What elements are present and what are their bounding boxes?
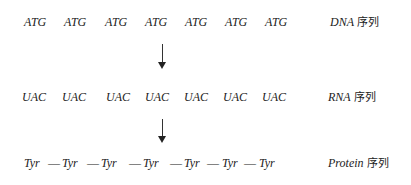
peptide-bond: — <box>129 155 141 171</box>
protein-residue: Tyr <box>24 155 40 171</box>
rna-label-zh: 序列 <box>354 91 376 104</box>
arrow-head <box>158 62 166 69</box>
peptide-bond: — <box>87 155 99 171</box>
dna-codon: ATG <box>105 14 127 30</box>
dna-codon: ATG <box>145 14 167 30</box>
dna-sequence-row: ATG ATG ATG ATG ATG ATG ATG DNA 序列 <box>0 14 411 30</box>
arrow-shaft <box>162 44 163 63</box>
protein-residue: Tyr <box>62 155 78 171</box>
protein-residue: Tyr <box>101 155 117 171</box>
dna-codon: ATG <box>265 14 287 30</box>
peptide-bond: — <box>207 155 219 171</box>
dna-codon: ATG <box>185 14 207 30</box>
dna-codon: ATG <box>225 14 247 30</box>
peptide-bond: — <box>244 155 256 171</box>
peptide-bond: — <box>170 155 182 171</box>
dna-label: DNA 序列 <box>330 14 379 31</box>
protein-residue: Tyr <box>222 155 238 171</box>
dna-label-zh: 序列 <box>357 16 379 29</box>
rna-codon: UAC <box>22 89 46 105</box>
rna-codon: UAC <box>262 89 286 105</box>
rna-codon: UAC <box>106 89 130 105</box>
dna-codon: ATG <box>64 14 86 30</box>
dna-codon: ATG <box>24 14 46 30</box>
rna-codon: UAC <box>145 89 169 105</box>
protein-residue: Tyr <box>259 155 275 171</box>
rna-label: RNA 序列 <box>328 89 376 106</box>
rna-codon: UAC <box>184 89 208 105</box>
protein-label: Protein 序列 <box>328 155 389 172</box>
protein-sequence-row: Tyr — Tyr — Tyr — Tyr — Tyr — Tyr — Tyr … <box>0 155 411 171</box>
dna-label-en: DNA <box>330 15 354 29</box>
transcription-arrow-icon <box>158 44 167 70</box>
protein-residue: Tyr <box>184 155 200 171</box>
rna-codon: UAC <box>223 89 247 105</box>
arrow-shaft <box>162 119 163 137</box>
protein-residue: Tyr <box>143 155 159 171</box>
arrow-head <box>158 136 166 143</box>
translation-arrow-icon <box>158 119 167 144</box>
rna-sequence-row: UAC UAC UAC UAC UAC UAC UAC RNA 序列 <box>0 89 411 105</box>
rna-codon: UAC <box>62 89 86 105</box>
protein-label-en: Protein <box>328 156 364 170</box>
peptide-bond: — <box>48 155 60 171</box>
rna-label-en: RNA <box>328 90 351 104</box>
protein-label-zh: 序列 <box>367 157 389 170</box>
